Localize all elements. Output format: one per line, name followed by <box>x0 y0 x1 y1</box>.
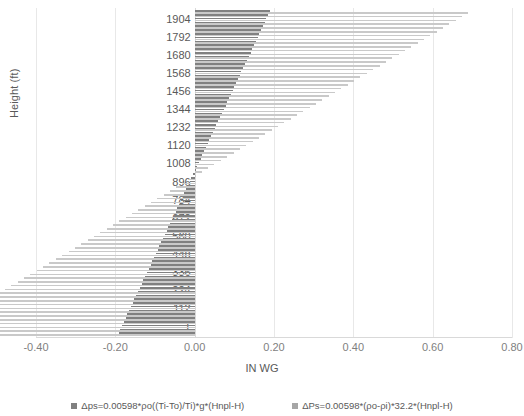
bar <box>195 10 270 12</box>
bar <box>195 162 199 164</box>
bar <box>195 105 226 107</box>
bar <box>168 226 194 228</box>
bar <box>195 82 237 84</box>
bar <box>195 37 258 39</box>
bar <box>195 33 260 35</box>
bar <box>177 207 194 209</box>
bar <box>156 253 195 255</box>
bar <box>195 52 251 54</box>
bars-layer <box>36 8 512 338</box>
legend-swatch-icon <box>292 403 298 409</box>
bar <box>138 291 195 293</box>
bar <box>195 128 215 130</box>
x-tick-label: 0.20 <box>244 341 304 353</box>
bar <box>122 325 195 327</box>
bar <box>195 14 269 16</box>
x-axis-line <box>36 337 512 338</box>
bar <box>165 234 195 236</box>
bar <box>195 124 217 126</box>
bar <box>184 192 194 194</box>
bar <box>195 78 238 80</box>
bar <box>195 147 206 149</box>
bar <box>127 313 194 315</box>
bar <box>176 211 195 213</box>
bar <box>151 264 195 266</box>
bar <box>195 71 242 73</box>
bar <box>195 109 224 111</box>
bar <box>134 298 194 300</box>
bar <box>159 245 194 247</box>
bar <box>195 158 201 160</box>
stack-effect-bar-chart: Height (ft) 1904179216801568145613441232… <box>0 0 524 416</box>
bar <box>193 173 194 175</box>
bar <box>161 241 194 243</box>
bar <box>188 185 195 187</box>
bar <box>195 41 256 43</box>
chart-legend: Δps=0.00598*ρo((Ti-To)/Ti)*g*(Hnpl-H) ΔP… <box>0 400 524 411</box>
bar <box>195 175 196 177</box>
bar <box>195 113 222 115</box>
y-axis-title: Height (ft) <box>8 0 20 118</box>
bar <box>195 25 263 27</box>
bar <box>195 90 233 92</box>
bar <box>195 171 202 173</box>
legend-label-series-2: ΔPs=0.00598*(ρo-ρi)*32.2*(Hnpl-H) <box>302 400 452 411</box>
bar <box>120 329 195 331</box>
bar <box>195 29 262 31</box>
bar <box>195 101 228 103</box>
bar <box>195 143 208 145</box>
bar <box>158 249 195 251</box>
x-tick-label: 0.00 <box>165 341 225 353</box>
bar <box>183 196 195 198</box>
bar <box>167 230 195 232</box>
bar <box>154 257 194 259</box>
bar <box>195 116 220 118</box>
bar <box>195 18 267 20</box>
bar <box>195 56 249 58</box>
bar <box>195 60 247 62</box>
x-tick-label: 0.40 <box>323 341 383 353</box>
bar <box>195 22 265 24</box>
x-tick-label: -0.20 <box>85 341 145 353</box>
bar <box>195 164 215 166</box>
bar <box>195 63 245 65</box>
bar <box>195 94 231 96</box>
bar <box>195 139 210 141</box>
legend-item-series-1: Δps=0.00598*ρo((Ti-To)/Ti)*g*(Hnpl-H) <box>71 400 244 411</box>
bar <box>170 223 195 225</box>
bar <box>174 215 195 217</box>
bar <box>142 283 195 285</box>
bar <box>191 177 194 179</box>
bar <box>136 295 194 297</box>
bar <box>179 204 194 206</box>
bar <box>195 167 208 169</box>
bar <box>143 279 194 281</box>
bar <box>195 135 212 137</box>
bar <box>147 272 195 274</box>
bar <box>195 97 230 99</box>
bar <box>145 276 195 278</box>
bar <box>181 200 195 202</box>
bar <box>119 332 195 334</box>
bar <box>195 154 203 156</box>
bar <box>131 306 195 308</box>
bar <box>124 321 195 323</box>
bar <box>195 169 196 171</box>
bar <box>195 44 255 46</box>
bar <box>195 120 219 122</box>
x-tick-label: -0.40 <box>6 341 66 353</box>
bar <box>195 150 205 152</box>
bar <box>195 67 244 69</box>
bar <box>195 75 240 77</box>
bar <box>195 132 213 134</box>
bar <box>163 238 195 240</box>
x-axis-title: IN WG <box>0 362 524 374</box>
legend-item-series-2: ΔPs=0.00598*(ρo-ρi)*32.2*(Hnpl-H) <box>292 400 452 411</box>
bar <box>140 287 195 289</box>
bar <box>172 219 195 221</box>
bar <box>126 317 195 319</box>
bar <box>195 166 197 168</box>
bar <box>186 188 194 190</box>
bar <box>195 86 235 88</box>
gridline <box>512 8 513 338</box>
